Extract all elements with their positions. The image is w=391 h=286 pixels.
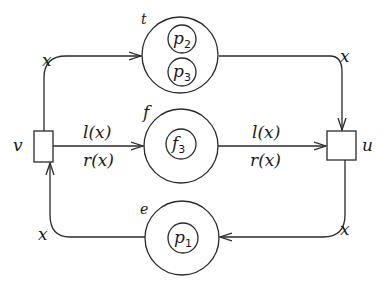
place-e-label: e <box>140 201 148 217</box>
arc-v-t-label: x <box>42 50 52 70</box>
arc-v-f-label-top: l(x) <box>83 122 111 142</box>
token-p3-text: p3 <box>173 61 191 84</box>
arc-e-v-label: x <box>38 224 48 244</box>
transition-u <box>327 131 356 160</box>
token-p2-text: p2 <box>173 28 191 51</box>
arc-t-u-label: x <box>340 46 350 66</box>
transition-v <box>34 131 53 162</box>
arc-f-u-label-bottom: r(x) <box>250 150 281 170</box>
transition-u-label: u <box>362 135 373 155</box>
petri-net-diagram: v u t f e p2 p3 f3 p1 x x l(x) r(x) l(x)… <box>0 0 391 286</box>
place-f-label: f <box>141 102 152 122</box>
arc-u-to-e <box>220 160 345 237</box>
arc-u-e-label: x <box>340 219 350 239</box>
token-f3-text: f3 <box>170 133 185 156</box>
token-p1-text: p1 <box>174 227 192 250</box>
arc-e-to-v <box>50 163 145 237</box>
arc-t-to-u <box>219 56 342 130</box>
arc-f-u-label-top: l(x) <box>252 122 280 142</box>
transition-v-label: v <box>13 135 23 155</box>
arc-v-f-label-bottom: r(x) <box>83 150 114 170</box>
arc-v-to-t <box>44 56 141 131</box>
place-t-label: t <box>141 11 147 27</box>
